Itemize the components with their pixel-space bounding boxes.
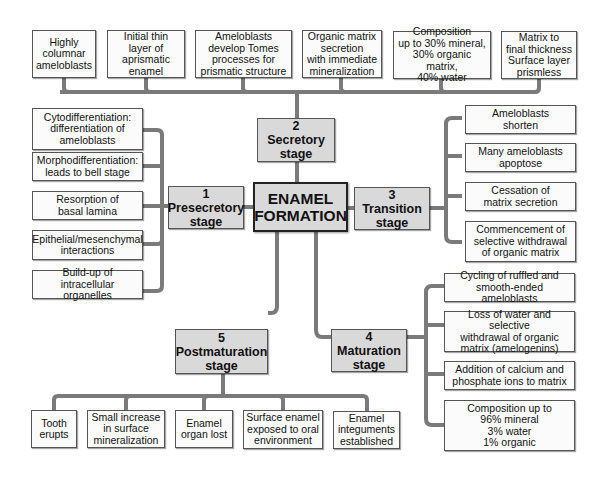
- secretory-item-final-thickness: Matrix to final thickness Surface layer …: [501, 31, 577, 79]
- presecretory-item-intracellular-organelles: Build-up of intracellular organelles: [32, 270, 143, 299]
- presecretory-item-cytodifferentiation: Cytodifferentiation: differentiation of …: [32, 108, 143, 150]
- center-title-line2: FORMATION: [254, 207, 347, 224]
- center-title-line1: ENAMEL: [268, 190, 333, 207]
- stage-suffix: stage: [190, 215, 223, 229]
- maturation-item-composition: Composition up to 96% mineral 3% water 1…: [444, 400, 575, 451]
- secretory-item-composition: Composition up to 30% mineral, 30% organ…: [393, 31, 491, 79]
- presecretory-item-epithelial-mesenchymal: Epithelial/mesenchymal interactions: [32, 230, 143, 260]
- maturation-item-calcium-phosphate: Addition of calcium and phosphate ions t…: [444, 361, 575, 390]
- stage-name: Secretory: [267, 133, 325, 147]
- stage-suffix: stage: [280, 147, 313, 161]
- stage-3-transition: 3 Transition stage: [354, 187, 430, 230]
- stage-2-secretory: 2 Secretory stage: [257, 118, 335, 162]
- stage-suffix: stage: [205, 359, 238, 373]
- stage-number: 2: [293, 119, 300, 133]
- secretory-item-columnar-ameloblasts: Highly columnar ameloblasts: [32, 30, 96, 78]
- stage-number: 3: [389, 188, 396, 202]
- stage-4-maturation: 4 Maturation stage: [331, 329, 407, 372]
- enamel-formation-diagram: Highly columnar ameloblasts Initial thin…: [0, 0, 610, 477]
- postmaturation-item-tooth-erupts: Tooth erupts: [31, 410, 77, 448]
- maturation-item-loss-of-water: Loss of water and selective withdrawal o…: [444, 311, 575, 352]
- stage-suffix: stage: [376, 216, 409, 230]
- secretory-item-tomes-processes: Ameloblasts develop Tomes processes for …: [195, 30, 292, 78]
- stage-suffix: stage: [353, 358, 386, 372]
- postmaturation-item-surface-mineralization: Small increase in surface mineralization: [87, 410, 165, 448]
- stage-1-presecretory: 1 Presecretory stage: [168, 186, 244, 229]
- secretory-item-organic-matrix-secretion: Organic matrix secretion with immediate …: [302, 30, 382, 78]
- presecretory-item-basal-lamina: Resorption of basal lamina: [32, 191, 143, 220]
- stage-number: 4: [366, 330, 373, 344]
- secretory-item-aprismatic-enamel: Initial thin layer of aprismatic enamel: [107, 30, 185, 78]
- postmaturation-item-integuments: Enamel integuments established: [333, 411, 400, 449]
- stage-name: Postmaturation: [176, 345, 268, 359]
- transition-item-cessation: Cessation of matrix secretion: [465, 182, 576, 211]
- postmaturation-item-organ-lost: Enamel organ lost: [175, 410, 233, 448]
- stage-name: Maturation: [337, 344, 401, 358]
- transition-item-commencement-withdrawal: Commencement of selective withdrawal of …: [465, 221, 576, 262]
- transition-item-apoptose: Many ameloblasts apoptose: [465, 143, 576, 172]
- maturation-item-cycling-ameloblasts: Cycling of ruffled and smooth-ended amel…: [444, 273, 575, 302]
- stage-5-postmaturation: 5 Postmaturation stage: [175, 329, 268, 374]
- presecretory-item-morphodifferentiation: Morphodifferentiation: leads to bell sta…: [32, 152, 143, 181]
- postmaturation-item-oral-environment: Surface enamel exposed to oral environme…: [243, 410, 323, 449]
- transition-item-ameloblasts-shorten: Ameloblasts shorten: [465, 105, 576, 134]
- enamel-formation-center: ENAMEL FORMATION: [253, 182, 348, 232]
- stage-number: 5: [218, 331, 225, 345]
- stage-name: Transition: [362, 202, 422, 216]
- stage-name: Presecretory: [168, 201, 244, 215]
- stage-number: 1: [203, 187, 210, 201]
